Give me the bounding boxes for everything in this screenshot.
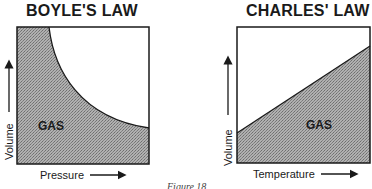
boyle-x-label: Pressure (40, 169, 84, 181)
gas-laws-diagram: GAS Volume Pressure GAS Volume Temperatu… (0, 0, 372, 189)
figure-caption: Figure 18 (167, 181, 206, 189)
boyle-y-label: Volume (3, 123, 15, 160)
boyle-chart: GAS Volume Pressure (3, 27, 149, 181)
boyle-gas-region (17, 27, 149, 164)
charles-y-label: Volume (222, 129, 234, 166)
charles-x-label: Temperature (253, 168, 315, 180)
charles-chart: GAS Volume Temperature (222, 27, 370, 180)
charles-gas-region (237, 46, 370, 163)
charles-gas-label: GAS (306, 118, 332, 132)
boyle-gas-label: GAS (38, 119, 64, 133)
